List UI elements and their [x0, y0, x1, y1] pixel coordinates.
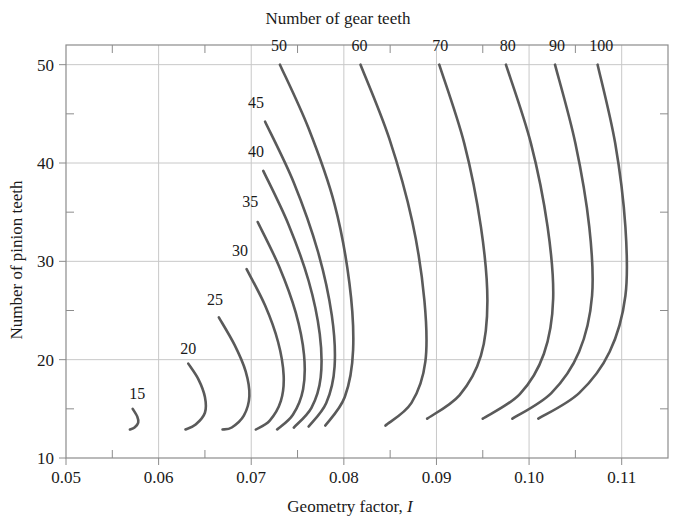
curve-label-90: 90	[549, 37, 565, 54]
curve-label-15: 15	[129, 385, 145, 402]
y-axis-label: Number of pinion teeth	[7, 180, 26, 340]
y-tick-label: 30	[37, 252, 54, 271]
x-tick-label: 0.06	[144, 468, 174, 487]
x-tick-label: 0.09	[422, 468, 452, 487]
curve-label-100: 100	[589, 37, 613, 54]
x-tick-label: 0.08	[329, 468, 359, 487]
curve-20	[185, 364, 205, 430]
curve-series-group	[130, 65, 627, 430]
geometry-factor-chart: Number of gear teeth 1520253035404550607…	[0, 0, 677, 527]
curve-label-35: 35	[242, 193, 258, 210]
curve-label-45: 45	[248, 94, 264, 111]
x-tick-label: 0.07	[236, 468, 266, 487]
curve-100	[538, 65, 627, 419]
x-tick-label: 0.11	[607, 468, 636, 487]
x-tick-labels: 0.050.060.070.080.090.100.11	[51, 468, 636, 487]
curve-25	[219, 317, 250, 429]
curve-80	[483, 65, 553, 419]
curve-30	[247, 269, 284, 429]
curve-15	[130, 409, 139, 430]
curve-label-80: 80	[500, 37, 516, 54]
curve-label-20: 20	[180, 340, 196, 357]
x-tick-label: 0.10	[514, 468, 544, 487]
curve-60	[361, 65, 427, 426]
y-tick-label: 20	[37, 351, 54, 370]
curve-label-30: 30	[232, 242, 248, 259]
x-axis-label: Geometry factor, I	[287, 497, 414, 516]
y-tick-label: 40	[37, 154, 54, 173]
y-tick-label: 50	[37, 56, 54, 75]
y-tick-label: 10	[37, 449, 54, 468]
chart-svg: Number of gear teeth 1520253035404550607…	[0, 0, 677, 527]
curve-label-70: 70	[432, 37, 448, 54]
curve-label-25: 25	[207, 291, 223, 308]
chart-title: Number of gear teeth	[266, 9, 411, 28]
curve-label-50: 50	[271, 37, 287, 54]
y-tick-labels: 1020304050	[37, 56, 54, 468]
curve-label-60: 60	[352, 37, 368, 54]
x-tick-label: 0.05	[51, 468, 81, 487]
curve-label-40: 40	[248, 143, 264, 160]
